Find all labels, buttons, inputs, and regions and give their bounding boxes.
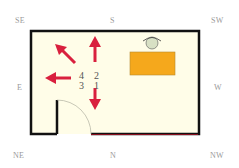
label-s: S bbox=[110, 16, 115, 25]
sector-3: 3 bbox=[79, 80, 84, 91]
label-ne: NE bbox=[13, 151, 24, 160]
label-e: E bbox=[17, 83, 22, 92]
desk bbox=[130, 52, 175, 75]
label-w: W bbox=[214, 83, 222, 92]
label-n: N bbox=[110, 151, 116, 160]
label-se: SE bbox=[15, 16, 25, 25]
sector-1: 1 bbox=[94, 80, 99, 91]
label-sw: SW bbox=[211, 16, 224, 25]
chair bbox=[146, 37, 158, 49]
label-nw: NW bbox=[210, 151, 224, 160]
floor-plan bbox=[0, 0, 239, 168]
